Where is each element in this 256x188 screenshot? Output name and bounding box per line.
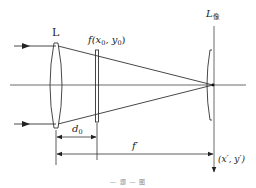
d0-label: d0 [72,124,83,136]
filter-label: f(x0, y0) [88,35,125,47]
image-lens-label-sub: 像 [213,13,220,21]
d0-label-sub: 0 [78,128,82,136]
image-lens-label-main: L [206,8,213,19]
filter-plate [96,50,99,122]
image-lens-label: L像 [206,9,220,21]
ray-arrow-bottom-icon [22,121,30,127]
focal-point [212,84,215,87]
ray-arrow-top-icon [22,43,30,49]
filter-label-mid: , y [105,34,117,45]
image-coords-label: (x′, y′) [218,155,245,164]
lens-L [50,43,62,128]
figure-caption: — 题 — 图 [0,177,256,186]
filter-label-args: (x [92,34,102,45]
lens-label: L [52,27,59,38]
converging-ray-top [58,46,213,85]
focal-length-label: f′ [132,141,138,151]
filter-label-end: ) [122,34,126,45]
converging-ray-bottom [58,85,213,124]
